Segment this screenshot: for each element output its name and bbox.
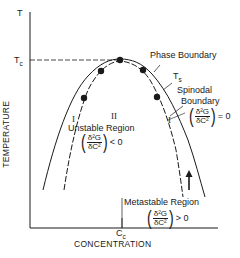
tc-label-sub: c [20, 60, 23, 67]
cc-label-sub: c [123, 233, 126, 240]
paren-open: ( [81, 132, 86, 152]
unstable-formula: ( δ²G δC² ) < 0 [80, 132, 122, 152]
tc-label: Tc [14, 56, 23, 67]
paren-close: ) [169, 208, 174, 228]
paren-close: ) [211, 106, 216, 126]
ts-label: Ts [173, 72, 182, 83]
ts-label-sub: s [179, 76, 182, 83]
spinodal-point [98, 68, 104, 74]
second-derivative-fraction: δ²G δC² [87, 134, 102, 151]
fraction-denominator: δC² [195, 117, 210, 125]
spinodal-point [81, 95, 87, 101]
y-axis-label: TEMPERATURE [2, 101, 11, 168]
metastable-formula: ( δ²G δC² ) > 0 [146, 208, 188, 228]
paren-open: ( [147, 208, 152, 228]
phase-boundary-label: Phase Boundary [150, 51, 217, 60]
second-derivative-fraction: δ²G δC² [153, 210, 168, 227]
spinodal-label-line1: Spinodal [177, 86, 212, 95]
fraction-denominator: δC² [153, 219, 168, 227]
critical-point [117, 57, 123, 63]
paren-close: ) [103, 132, 108, 152]
spinodal-point [140, 67, 146, 73]
spinodal-formula: ( δ²G δC² ) = 0 [188, 106, 230, 126]
metastable-region-label: Metastable Region [124, 198, 199, 207]
metastable-arrow-icon [186, 170, 193, 190]
spinodal-point [154, 94, 160, 100]
second-derivative-fraction: δ²G δC² [195, 108, 210, 125]
region-one-left-label: I [72, 115, 75, 124]
ts-leader [163, 83, 172, 90]
spinodal-relation: = 0 [218, 112, 231, 121]
region-one-right-label: I [168, 116, 171, 125]
x-axis-label: CONCENTRATION [74, 240, 151, 249]
fraction-denominator: δC² [87, 143, 102, 151]
paren-open: ( [189, 106, 194, 126]
metastable-relation: > 0 [176, 214, 189, 223]
region-two-numeral: II [111, 112, 117, 121]
y-axis-symbol: T [17, 9, 23, 18]
unstable-relation: < 0 [110, 138, 123, 147]
phase-boundary-leader [154, 65, 160, 72]
cc-label: Cc [116, 229, 126, 240]
